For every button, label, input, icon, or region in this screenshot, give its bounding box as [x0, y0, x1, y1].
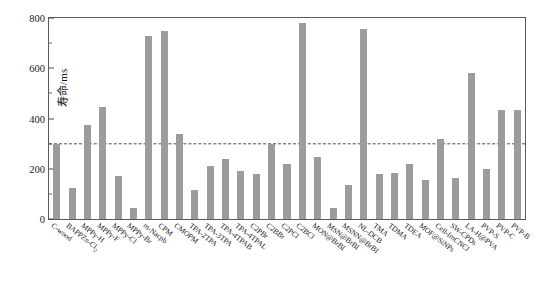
- bar: [406, 164, 413, 219]
- bar: [53, 144, 60, 219]
- bar: [130, 208, 137, 219]
- bar: [69, 188, 76, 219]
- y-tick-label: 200: [29, 163, 45, 174]
- bar: [391, 173, 398, 219]
- bar: [161, 31, 168, 219]
- bar: [468, 73, 475, 219]
- x-axis-labels: C-woodBAPPZn-Cl2MPPy-HMPPy-FMPPy-ClMPPy-…: [48, 221, 526, 289]
- bar: [176, 134, 183, 219]
- bar: [84, 125, 91, 219]
- bar: [253, 174, 260, 219]
- bar: [452, 178, 459, 219]
- bar: [283, 164, 290, 219]
- bar: [360, 29, 367, 219]
- bar: [268, 144, 275, 219]
- bar: [514, 110, 521, 219]
- bar: [207, 166, 214, 219]
- bar: [376, 174, 383, 219]
- plot-area: 寿命/ms 0200400600800: [48, 17, 526, 220]
- chart-root: 寿命/ms 0200400600800 C-woodBAPPZn-Cl2MPPy…: [0, 0, 548, 289]
- bar: [99, 107, 106, 219]
- bar: [345, 185, 352, 219]
- bar: [422, 180, 429, 219]
- bar: [145, 36, 152, 219]
- y-tick-label: 0: [40, 214, 45, 225]
- bar: [115, 176, 122, 219]
- bar: [437, 139, 444, 219]
- bar: [191, 190, 198, 219]
- bar: [222, 159, 229, 219]
- bar: [330, 208, 337, 219]
- y-tick-label: 400: [29, 113, 45, 124]
- y-tick-label: 800: [29, 13, 45, 24]
- bar: [237, 171, 244, 219]
- bar: [314, 157, 321, 219]
- bar: [498, 110, 505, 219]
- bar: [299, 23, 306, 219]
- bar: [483, 169, 490, 219]
- y-tick-label: 600: [29, 63, 45, 74]
- bar-series: [49, 18, 525, 219]
